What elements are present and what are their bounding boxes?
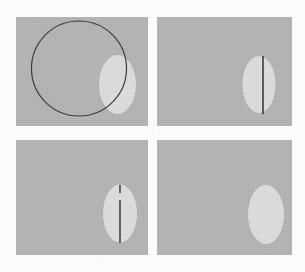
bright-region-blob xyxy=(243,56,276,113)
panel-top-right xyxy=(157,17,292,126)
bright-region-blob xyxy=(99,55,136,114)
panel-bottom-right xyxy=(157,140,292,255)
panel-bottom-left xyxy=(16,140,148,255)
bright-region-blob xyxy=(248,185,284,244)
panel-top-left xyxy=(16,17,148,126)
figure-root xyxy=(0,0,305,272)
panel-top-right-shapes xyxy=(157,17,292,126)
panel-bottom-left-shapes xyxy=(16,140,148,255)
panel-top-left-shapes xyxy=(16,17,148,126)
panel-bottom-right-shapes xyxy=(157,140,292,255)
